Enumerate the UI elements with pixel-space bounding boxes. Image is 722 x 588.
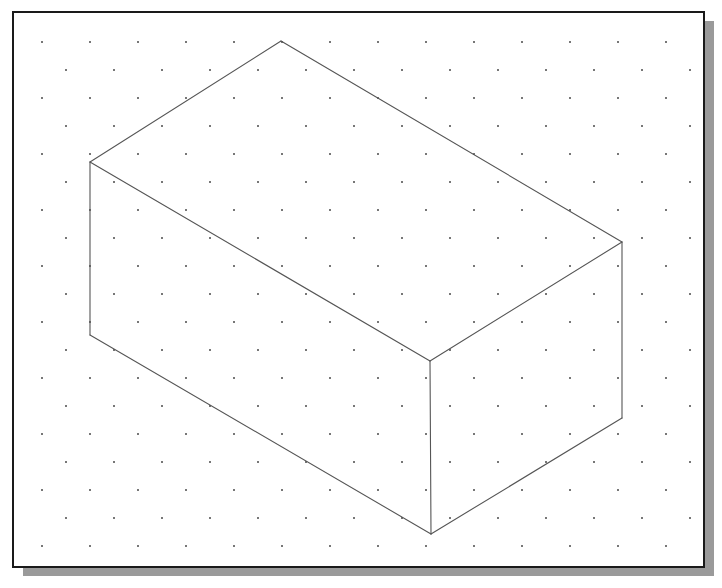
grid-dot [689, 181, 691, 183]
grid-dot [185, 209, 187, 211]
grid-dot [593, 237, 595, 239]
grid-dot [65, 405, 67, 407]
grid-dot [617, 97, 619, 99]
grid-dot [569, 545, 571, 547]
grid-dot [401, 349, 403, 351]
grid-dot [233, 433, 235, 435]
grid-dot [233, 321, 235, 323]
grid-dot [305, 293, 307, 295]
grid-dot [689, 293, 691, 295]
grid-dot [281, 153, 283, 155]
grid-dot [353, 293, 355, 295]
grid-dot [473, 489, 475, 491]
grid-dot [425, 41, 427, 43]
grid-dot [665, 433, 667, 435]
grid-dot [641, 349, 643, 351]
grid-dot [449, 237, 451, 239]
grid-dot [593, 461, 595, 463]
grid-dot [689, 125, 691, 127]
grid-dot [185, 153, 187, 155]
grid-dot [41, 209, 43, 211]
grid-dot [329, 377, 331, 379]
grid-dot [377, 153, 379, 155]
grid-dot [377, 489, 379, 491]
grid-dot [65, 125, 67, 127]
grid-dot [377, 433, 379, 435]
grid-dot [281, 209, 283, 211]
grid-dot [497, 181, 499, 183]
grid-dot [329, 545, 331, 547]
grid-dot [449, 181, 451, 183]
grid-dot [497, 405, 499, 407]
grid-dot [209, 293, 211, 295]
grid-dot [41, 489, 43, 491]
grid-dot [449, 69, 451, 71]
grid-dot [473, 377, 475, 379]
grid-dot [41, 153, 43, 155]
grid-dot [257, 405, 259, 407]
grid-dot [521, 377, 523, 379]
grid-dot [617, 153, 619, 155]
grid-dot [209, 181, 211, 183]
grid-dot [401, 461, 403, 463]
grid-dot [209, 237, 211, 239]
grid-dot [449, 125, 451, 127]
grid-dot [425, 545, 427, 547]
grid-dot [665, 41, 667, 43]
grid-dot [185, 433, 187, 435]
grid-dot [641, 293, 643, 295]
grid-dot [329, 209, 331, 211]
grid-dot [641, 125, 643, 127]
grid-dot [41, 97, 43, 99]
grid-dot [305, 125, 307, 127]
grid-dot [161, 461, 163, 463]
grid-dot [185, 545, 187, 547]
grid-dot [545, 293, 547, 295]
grid-dot [521, 97, 523, 99]
grid-dot [425, 209, 427, 211]
grid-dot [257, 237, 259, 239]
grid-dot [161, 125, 163, 127]
grid-dot [521, 545, 523, 547]
grid-dot [257, 125, 259, 127]
grid-dot [545, 237, 547, 239]
grid-dot [377, 377, 379, 379]
grid-dot [617, 41, 619, 43]
grid-dot [65, 517, 67, 519]
grid-dot [257, 461, 259, 463]
grid-dot [569, 265, 571, 267]
grid-dot [641, 461, 643, 463]
grid-dot [377, 209, 379, 211]
grid-dot [185, 41, 187, 43]
grid-dot [521, 321, 523, 323]
grid-dot [137, 321, 139, 323]
grid-dot [41, 433, 43, 435]
grid-dot [425, 153, 427, 155]
grid-dot [233, 489, 235, 491]
grid-dot [449, 461, 451, 463]
grid-dot [257, 293, 259, 295]
grid-dot [401, 405, 403, 407]
grid-dot [233, 377, 235, 379]
grid-dot [185, 97, 187, 99]
grid-dot [65, 237, 67, 239]
grid-dot [689, 349, 691, 351]
grid-dot [281, 377, 283, 379]
grid-dot [353, 125, 355, 127]
grid-dot [545, 181, 547, 183]
grid-dot [665, 209, 667, 211]
grid-dot [353, 237, 355, 239]
grid-dot [521, 265, 523, 267]
grid-dot [665, 321, 667, 323]
grid-dot [497, 237, 499, 239]
grid-dot [185, 489, 187, 491]
grid-dot [305, 237, 307, 239]
grid-dot [65, 181, 67, 183]
grid-dot [569, 377, 571, 379]
grid-dot [161, 181, 163, 183]
grid-dot [89, 153, 91, 155]
grid-dot [425, 433, 427, 435]
grid-dot [377, 265, 379, 267]
grid-dot [329, 433, 331, 435]
grid-dot [329, 321, 331, 323]
